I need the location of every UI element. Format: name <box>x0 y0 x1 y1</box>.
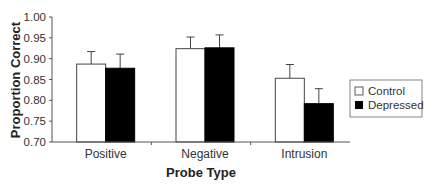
bar-chart: 0.700.750.800.850.900.951.00 PositiveNeg… <box>0 0 433 192</box>
y-tick-label: 0.85 <box>24 74 46 86</box>
x-category-label: Positive <box>85 147 127 161</box>
y-axis-title: Proportion Correct <box>8 21 23 138</box>
bar-depressed-negative <box>205 48 234 142</box>
x-axis: PositiveNegativeIntrusion <box>52 142 350 161</box>
legend-swatch-depressed <box>355 101 363 109</box>
x-category-label: Negative <box>181 147 229 161</box>
bars <box>77 35 334 142</box>
bar-control-positive <box>77 64 106 142</box>
y-tick-label: 0.75 <box>24 115 46 127</box>
y-axis: 0.700.750.800.850.900.951.00 <box>24 11 52 148</box>
y-tick-label: 0.70 <box>24 136 46 148</box>
bar-control-intrusion <box>275 78 304 142</box>
bar-depressed-intrusion <box>304 104 333 142</box>
y-tick-label: 0.95 <box>24 32 46 44</box>
bar-control-negative <box>176 49 205 142</box>
legend: Control Depressed <box>350 80 424 117</box>
y-tick-label: 0.80 <box>24 94 46 106</box>
bar-depressed-positive <box>106 68 135 142</box>
y-tick-label: 0.90 <box>24 53 46 65</box>
x-axis-title: Probe Type <box>166 165 236 180</box>
legend-swatch-control <box>355 87 363 95</box>
y-tick-label: 1.00 <box>24 11 46 23</box>
legend-label-depressed: Depressed <box>368 99 424 111</box>
x-category-label: Intrusion <box>281 147 327 161</box>
legend-label-control: Control <box>368 85 405 97</box>
